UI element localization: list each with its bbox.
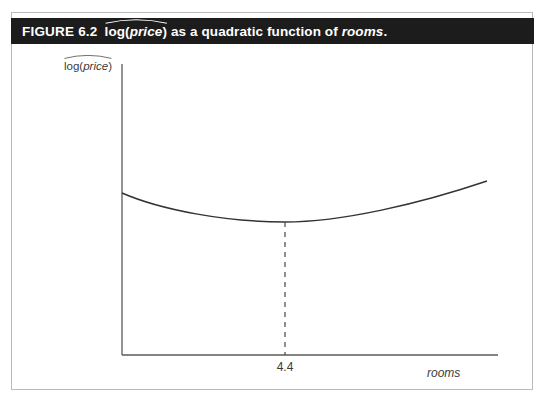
caption-rooms-term: rooms	[342, 24, 384, 39]
y-axis-hatted-expression: log(price)	[64, 58, 112, 72]
caption-hatted-expression: log(price)	[105, 23, 168, 39]
caption-period: .	[383, 24, 387, 39]
plot-area: log(price) 4.4 rooms	[11, 44, 533, 390]
figure-caption-text: FIGURE 6.2 log(price) as a quadratic fun…	[11, 23, 387, 39]
figure-number-label: FIGURE 6.2	[22, 25, 98, 39]
hat-accent-icon	[105, 17, 168, 24]
hat-accent-icon	[64, 53, 112, 59]
plot-canvas	[11, 44, 533, 390]
caption-body: log(price) as a quadratic function of ro…	[105, 23, 388, 39]
y-axis-label-text: log(price)	[64, 60, 112, 72]
caption-middle-text: as a quadratic function of	[167, 24, 342, 39]
figure-caption-bar: FIGURE 6.2 log(price) as a quadratic fun…	[11, 18, 534, 44]
y-axis-label: log(price)	[64, 58, 112, 72]
x-axis-tick-label-4-4: 4.4	[277, 360, 294, 374]
caption-log-price: log(price)	[105, 24, 168, 39]
quadratic-curve	[122, 181, 487, 222]
figure-root: FIGURE 6.2 log(price) as a quadratic fun…	[0, 0, 557, 407]
x-axis-label: rooms	[427, 366, 460, 380]
